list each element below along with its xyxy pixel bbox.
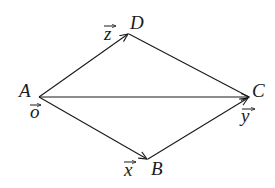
edge-d-c (129, 34, 249, 97)
vector-label-y: y (239, 105, 255, 126)
edge-a-d (39, 34, 128, 97)
edge-a-b (39, 97, 147, 159)
point-label-b: B (151, 158, 163, 179)
svg-text:o: o (30, 101, 40, 122)
vector-label-o: o (30, 101, 41, 122)
point-label-d: D (129, 12, 144, 33)
point-label-c: C (252, 80, 265, 101)
point-label-a: A (17, 80, 31, 101)
vector-label-z: z (103, 23, 116, 44)
edge-b-c (148, 98, 248, 159)
svg-text:y: y (239, 105, 250, 126)
vector-diagram: A D C B o z y x (0, 0, 275, 188)
vector-label-x: x (123, 159, 136, 180)
